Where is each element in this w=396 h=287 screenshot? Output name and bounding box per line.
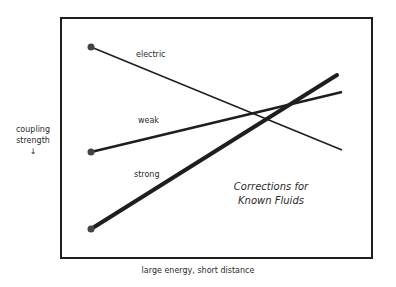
weak-line xyxy=(91,92,342,152)
annotation-line1: Corrections for xyxy=(226,180,316,194)
strong-start-dot xyxy=(88,226,95,233)
coupling-diagram xyxy=(0,0,396,287)
electric-line xyxy=(91,47,342,150)
strong-label: strong xyxy=(134,170,159,179)
annotation: Corrections for Known Fluids xyxy=(226,180,316,208)
down-arrow-icon: ↓ xyxy=(10,146,56,157)
y-axis-label-line1: coupling xyxy=(10,124,56,135)
y-axis-label-line2: strength xyxy=(10,135,56,146)
weak-start-dot xyxy=(88,149,95,156)
annotation-line2: Known Fluids xyxy=(226,194,316,208)
electric-label: electric xyxy=(136,50,166,59)
weak-label: weak xyxy=(138,116,159,125)
electric-start-dot xyxy=(88,44,95,51)
x-axis-label: large energy, short distance xyxy=(0,266,396,275)
y-axis-label: coupling strength ↓ xyxy=(10,124,56,157)
